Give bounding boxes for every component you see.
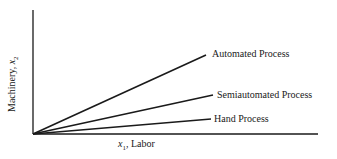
isoquant-diagram: Automated Process Semiautomated Process … xyxy=(0,0,337,159)
semiautomated-process-label: Semiautomated Process xyxy=(217,89,312,100)
y-axis-label: Machinery, x2 xyxy=(6,56,20,112)
x-axis-label: x1, Labor xyxy=(118,138,155,152)
semiautomated-process-line xyxy=(33,95,213,134)
automated-process-label: Automated Process xyxy=(212,48,290,59)
diagram-canvas xyxy=(0,0,337,159)
hand-process-label: Hand Process xyxy=(214,113,269,124)
